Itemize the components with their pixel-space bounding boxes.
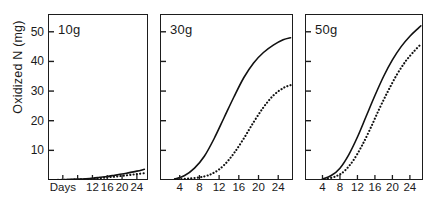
- plot-curves: [48, 14, 148, 180]
- y-axis-group: Oxidized N (mg) 5040302010: [0, 0, 44, 190]
- y-tick-label: 30: [2, 85, 44, 97]
- plot-curves: [305, 14, 423, 180]
- plot-curves: [160, 14, 293, 180]
- curve-solid: [322, 26, 420, 179]
- x-axis-ticks-panel-50g: 4812162024: [0, 182, 441, 198]
- x-tick-label: 12: [351, 182, 364, 194]
- curve-dotted: [325, 44, 421, 179]
- y-tick-label: 50: [2, 26, 44, 38]
- x-tick-label: 8: [337, 182, 343, 194]
- x-tick-label: 4: [319, 182, 325, 194]
- x-tick-label: 24: [403, 182, 416, 194]
- figure-oxidized-nitrogen: Oxidized N (mg) 5040302010 10g 30g 50g D…: [0, 0, 441, 215]
- y-tick-label: 10: [2, 144, 44, 156]
- panel-10g: 10g: [48, 14, 148, 180]
- curve-solid: [175, 38, 291, 179]
- y-tick-label: 40: [2, 55, 44, 67]
- panel-30g: 30g: [160, 14, 293, 180]
- y-tick-label: 20: [2, 115, 44, 127]
- x-tick-label: 20: [386, 182, 399, 194]
- x-tick-label: 16: [369, 182, 382, 194]
- panel-50g: 50g: [305, 14, 423, 180]
